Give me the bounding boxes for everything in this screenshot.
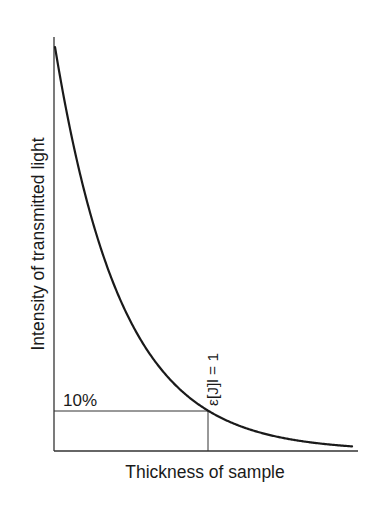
absorbance-chart: Intensity of transmitted light Thickness…	[0, 0, 388, 513]
y-axis-label: Intensity of transmitted light	[28, 137, 48, 350]
epsilon-label: ε[J]l = 1	[204, 353, 221, 406]
ten-percent-label: 10%	[63, 391, 97, 410]
x-axis-label: Thickness of sample	[125, 462, 285, 482]
